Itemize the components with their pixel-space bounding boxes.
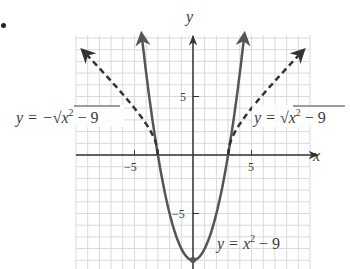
tick-label-y-neg5: −5 [172, 207, 185, 221]
eq-left-prefix: y = − [14, 109, 53, 127]
equation-parabola: y = x2 − 9 [215, 233, 280, 253]
svg-text:y = −√x2 − 9: y = −√x2 − 9 [14, 107, 99, 127]
svg-text:y = √x2 − 9: y = √x2 − 9 [252, 107, 326, 127]
eq-right-radicand: x [288, 109, 296, 126]
eq-parab-prefix: y = x [215, 235, 250, 253]
svg-text:y = x2 − 9: y = x2 − 9 [215, 233, 280, 253]
tick-label-y-pos5: 5 [180, 90, 186, 104]
graph-figure: −5 5 5 −5 x y y = −√x2 − 9 y = √x2 − 9 y… [0, 0, 350, 269]
x-axis-label: x [312, 147, 320, 164]
tick-label-x-neg5: −5 [124, 160, 137, 174]
eq-right-prefix: y = [252, 109, 280, 127]
equation-right: y = √x2 − 9 [252, 105, 347, 127]
equation-left: y = −√x2 − 9 [14, 105, 124, 127]
vertex-point [190, 257, 196, 263]
y-axis-label: y [184, 8, 194, 26]
tick-label-x-pos5: 5 [248, 160, 254, 174]
eq-left-radicand: x [60, 109, 68, 126]
